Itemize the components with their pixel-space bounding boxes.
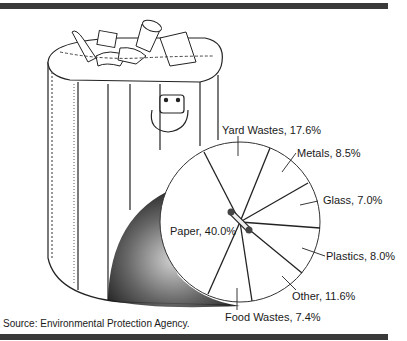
label-metals: Metals, 8.5% xyxy=(297,147,361,159)
label-food-wastes: Food Wastes, 7.4% xyxy=(225,311,321,323)
source-note: Source: Environmental Protection Agency. xyxy=(3,318,190,329)
label-glass: Glass, 7.0% xyxy=(323,194,382,206)
label-plastics: Plastics, 8.0% xyxy=(326,250,395,262)
label-paper: Paper, 40.0% xyxy=(170,225,236,237)
label-other: Other, 11.6% xyxy=(292,290,355,302)
label-yard-wastes: Yard Wastes, 17.6% xyxy=(222,124,321,136)
